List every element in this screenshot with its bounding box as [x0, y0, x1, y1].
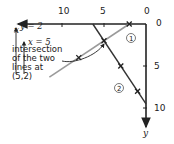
intersection-annotation: intersection of the two lines at (5,2) x…	[12, 21, 62, 81]
line-2-point-mark	[135, 89, 140, 94]
y-axis-label: y	[142, 128, 149, 138]
x-axis-label: x	[14, 25, 19, 35]
diagram: 510510 x y 0 0 1 2 intersection of the t…	[0, 0, 174, 144]
intersection-point-mark	[102, 38, 107, 43]
line-2-label: 2	[115, 84, 124, 94]
x-tick-label: 10	[58, 6, 70, 16]
origin-label-x: 0	[144, 6, 150, 16]
y-tick-label: 10	[154, 103, 166, 113]
y-tick-label: 5	[154, 61, 160, 71]
annotation-line-4: (5,2)	[12, 71, 32, 81]
coordinate-diagram: 510510 x y 0 0 1 2 intersection of the t…	[0, 0, 174, 144]
intersection-pointer-arrow	[62, 44, 104, 62]
svg-text:2: 2	[117, 85, 121, 93]
y-equals-2: y = 2	[19, 21, 43, 31]
line-2-point-mark	[118, 64, 123, 69]
x-tick-label: 5	[100, 6, 106, 16]
x-equals-5: x = 5	[28, 37, 51, 47]
origin-label-y: 0	[156, 18, 162, 28]
svg-text:1: 1	[129, 35, 133, 43]
line-1-label: 1	[127, 34, 136, 44]
